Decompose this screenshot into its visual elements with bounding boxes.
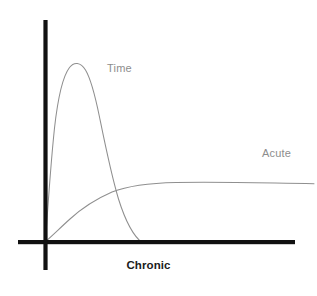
chronic-axis-label: Chronic <box>0 259 307 271</box>
acute-curve <box>46 182 315 241</box>
time-curve-label: Time <box>107 62 132 74</box>
figure-canvas: Time Acute Chronic <box>0 0 317 296</box>
acute-curve-label: Acute <box>262 147 291 159</box>
time-curve <box>46 63 143 243</box>
y-axis <box>43 20 47 270</box>
x-axis <box>18 240 295 244</box>
